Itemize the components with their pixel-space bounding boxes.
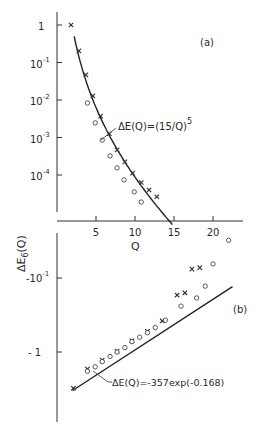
- panel-b-cross-point: [198, 265, 202, 269]
- tick-exp: -1: [42, 270, 49, 278]
- tick-exp: -3: [43, 131, 50, 139]
- panel-b-fit-line: [73, 287, 233, 391]
- panel-b-circle-point: [123, 345, 127, 349]
- tick-base: - 1: [28, 347, 41, 358]
- y-axis-label: ΔE6(Q): [15, 235, 30, 272]
- panel-a-cross-point: [147, 188, 151, 192]
- panel-a-cross-point: [155, 195, 159, 199]
- panel-a-fit-label-exp: 5: [187, 117, 192, 126]
- panel-a-cross-point: [123, 160, 127, 164]
- panel-b-circle-point: [194, 296, 198, 300]
- y-axis-label-arg: (Q): [15, 235, 28, 252]
- panel-a-x-tick-label: 20: [207, 227, 220, 238]
- tick-exp: -4: [43, 168, 51, 176]
- panel-b-y-tick-label: - 1: [28, 347, 41, 358]
- panel-b-circle-point: [226, 238, 230, 242]
- panel-a-y-tick-label: 10-4: [30, 168, 50, 182]
- panel-b-circle-point: [130, 339, 134, 343]
- figure-canvas: 110-110-210-310-4 5101520 (a) Q ΔE(Q)=(1…: [0, 0, 263, 431]
- panel-a-label: (a): [200, 37, 214, 48]
- panel-a-fit-label: ΔE(Q)=(15/Q)5: [118, 117, 192, 132]
- panel-b-label: (b): [233, 304, 247, 315]
- tick-exp: -1: [43, 56, 50, 64]
- panel-a-cross-point: [69, 23, 73, 27]
- panel-b-circle-point: [115, 350, 119, 354]
- panel-a-x-tick-label: 5: [93, 227, 99, 238]
- tick-exp: -2: [43, 93, 50, 101]
- panel-b-circle-point: [153, 325, 157, 329]
- tick-base: 10: [30, 134, 43, 145]
- panel-b-y-tick-label: -10-1: [26, 270, 49, 284]
- panel-a-circle-point: [132, 190, 136, 194]
- panel-b-fit-label: ΔE(Q)=-357exp(-0.168): [112, 377, 224, 388]
- panel-a-fit-leader: [101, 128, 116, 140]
- panel-b-cross-point: [175, 293, 179, 297]
- panel-a-y-tick-label: 1: [38, 21, 44, 32]
- panel-b-circle-point: [93, 365, 97, 369]
- panel-b-circle-point: [179, 304, 183, 308]
- panel-a-circle-point: [93, 121, 97, 125]
- panel-b-circle-point: [100, 359, 104, 363]
- panel-b-circle-point: [85, 369, 89, 373]
- panel-a-y-tick-label: 10-1: [30, 56, 50, 70]
- panel-a-circle-point: [115, 166, 119, 170]
- panel-b-cross-point: [190, 267, 194, 271]
- panel-a-x-tick-label: 10: [129, 227, 142, 238]
- panel-a-circle-point: [85, 101, 89, 105]
- tick-base: -10: [26, 273, 42, 284]
- panel-a-y-tick-label: 10-2: [30, 93, 50, 107]
- panel-a-x-tick-label: 15: [168, 227, 181, 238]
- x-axis-label: Q: [131, 240, 140, 253]
- panel-a: 110-110-210-310-4 5101520 (a) Q ΔE(Q)=(1…: [30, 12, 243, 253]
- panel-a-cross-point: [139, 180, 143, 184]
- tick-base: 10: [30, 59, 43, 70]
- tick-base: 10: [30, 171, 43, 182]
- tick-base: 1: [38, 21, 44, 32]
- panel-a-circle-point: [122, 178, 126, 182]
- panel-b-circle-point: [211, 262, 215, 266]
- panel-b-circle-point: [203, 284, 207, 288]
- panel-b-circle-point: [163, 318, 167, 322]
- panel-a-circle-point: [108, 154, 112, 158]
- y-axis-label-text: ΔE: [15, 257, 28, 272]
- panel-b-circle-point: [137, 335, 141, 339]
- panel-a-y-tick-label: 10-3: [30, 131, 50, 145]
- tick-base: 10: [30, 96, 43, 107]
- panel-b-circle-point: [108, 354, 112, 358]
- panel-b: -10-1- 1 (b) ΔE(Q)=-357exp(-0.168): [26, 233, 247, 422]
- panel-b-circle-point: [145, 331, 149, 335]
- panel-b-cross-point: [183, 291, 187, 295]
- panel-a-fit-label-text: ΔE(Q)=(15/Q): [118, 121, 187, 132]
- panel-a-circle-point: [139, 200, 143, 204]
